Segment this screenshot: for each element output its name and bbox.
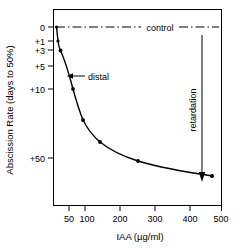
data-point xyxy=(55,25,58,28)
data-point xyxy=(71,87,75,91)
x-axis-title: IAA (µg/ml) xyxy=(116,231,163,242)
data-point xyxy=(56,39,59,42)
data-point xyxy=(210,174,214,178)
retardation-label: retardation xyxy=(188,88,198,131)
y-tick-label: +3 xyxy=(35,46,45,56)
control-label: control xyxy=(146,23,173,33)
x-tick-label: 300 xyxy=(147,214,162,224)
y-tick-label: +5 xyxy=(35,62,45,72)
x-tick-label: 50 xyxy=(64,214,74,224)
y-axis-title: Abscission Rate (days to 50%) xyxy=(4,45,15,174)
x-tick-label: 400 xyxy=(182,214,197,224)
y-tick-label: +10 xyxy=(30,85,45,95)
data-point xyxy=(98,140,102,144)
y-tick-label: +50 xyxy=(30,154,45,164)
data-point xyxy=(59,49,63,53)
y-tick-label: 0 xyxy=(40,23,45,33)
distal-label: distal xyxy=(88,72,109,82)
chart-canvas: 0 +1 +3 +5 +10 +50 50 100 200 300 400 50… xyxy=(0,0,246,252)
x-tick-label: 500 xyxy=(213,214,228,224)
data-point xyxy=(81,118,85,122)
x-tick-label: 100 xyxy=(79,214,94,224)
x-tick-label: 200 xyxy=(112,214,127,224)
abscission-rate-chart: 0 +1 +3 +5 +10 +50 50 100 200 300 400 50… xyxy=(0,0,246,252)
data-point xyxy=(136,159,140,163)
